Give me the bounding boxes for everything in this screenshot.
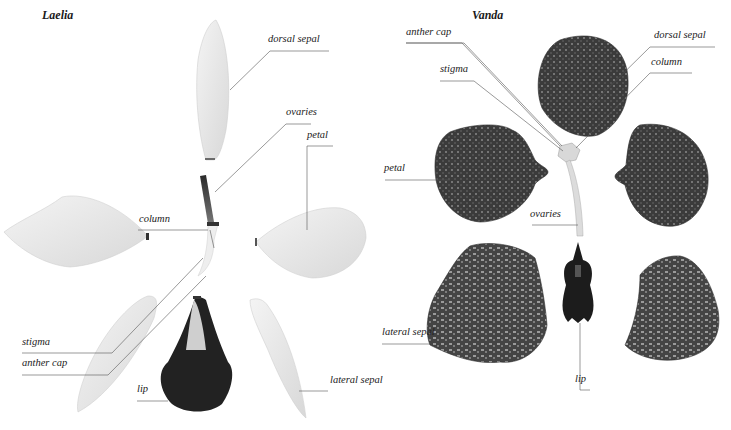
laelia-lateral-sepal-left [77, 296, 156, 412]
vanda-label-stigma: stigma [440, 63, 468, 74]
vanda-column [558, 143, 583, 236]
diagram-artwork [0, 0, 731, 430]
vanda-lateral-sepal-right [625, 256, 719, 360]
laelia-label-ovaries: ovaries [286, 106, 317, 117]
laelia-petal-right [255, 208, 366, 278]
laelia-label-dorsal-sepal: dorsal sepal [268, 33, 320, 44]
vanda-lateral-sepal-left [427, 243, 547, 362]
vanda-label-lateral-sepal: lateral sepal [382, 326, 435, 337]
laelia-title: Laelia [42, 8, 73, 23]
laelia-label-stigma: stigma [22, 336, 50, 347]
laelia-label-lateral-sepal: lateral sepal [330, 374, 383, 385]
vanda-lip [563, 242, 594, 323]
vanda-label-column: column [651, 56, 682, 67]
vanda-petal-right [615, 124, 708, 226]
vanda-dorsal-sepal [538, 36, 628, 136]
orchid-anatomy-diagram: Laelia dorsal sepal ovaries petal column… [0, 0, 731, 430]
laelia-lip [161, 296, 233, 412]
laelia-lateral-sepal-right [250, 299, 306, 418]
laelia-label-petal: petal [307, 129, 328, 140]
laelia-label-lip: lip [137, 383, 148, 394]
laelia-dorsal-sepal [197, 20, 229, 160]
laelia-label-column: column [139, 213, 170, 224]
laelia-label-anther-cap: anther cap [22, 357, 67, 368]
vanda-label-anther-cap: anther cap [406, 26, 451, 37]
vanda-label-lip: lip [575, 373, 586, 384]
laelia-petal-left [4, 196, 149, 267]
vanda-title: Vanda [472, 8, 503, 23]
vanda-label-dorsal-sepal: dorsal sepal [654, 29, 706, 40]
vanda-label-ovaries: ovaries [530, 208, 561, 219]
vanda-label-petal: petal [384, 162, 405, 173]
laelia-ovaries [198, 175, 219, 276]
